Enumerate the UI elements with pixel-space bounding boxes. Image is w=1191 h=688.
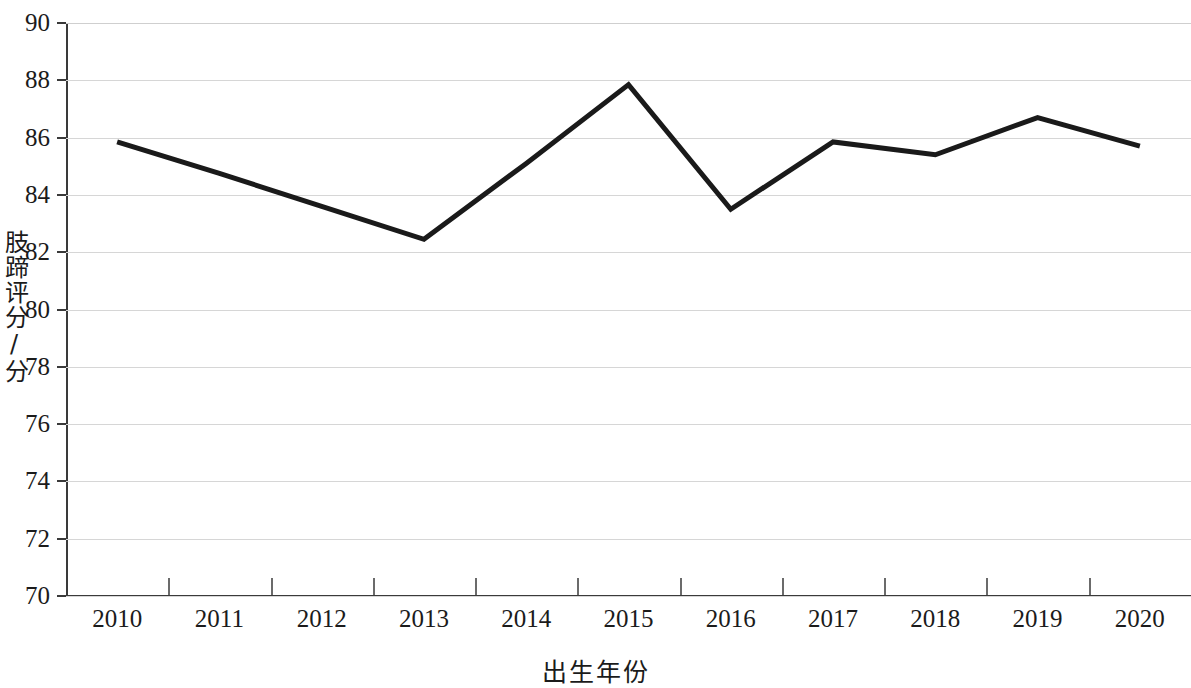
y-tick-mark-80 — [57, 309, 66, 311]
y-tick-label-82: 82 — [0, 239, 50, 264]
x-tick-label-2010: 2010 — [92, 606, 142, 631]
x-tick-label-2014: 2014 — [501, 606, 551, 631]
gridline-84 — [66, 195, 1191, 196]
x-tick-label-2016: 2016 — [706, 606, 756, 631]
plot-area — [66, 23, 1191, 596]
y-tick-label-84: 84 — [0, 182, 50, 207]
x-tick-label-2015: 2015 — [604, 606, 654, 631]
y-tick-label-78: 78 — [0, 354, 50, 379]
y-tick-label-80: 80 — [0, 297, 50, 322]
y-tick-label-88: 88 — [0, 67, 50, 92]
y-tick-mark-84 — [57, 194, 66, 196]
x-tick-label-2019: 2019 — [1013, 606, 1063, 631]
y-tick-label-76: 76 — [0, 411, 50, 436]
y-tick-mark-88 — [57, 79, 66, 81]
gridline-70 — [66, 596, 1191, 597]
x-tick-mark-6 — [680, 578, 682, 595]
gridline-88 — [66, 80, 1191, 81]
x-axis-title: 出生年份 — [0, 652, 1191, 688]
y-tick-label-86: 86 — [0, 125, 50, 150]
x-tick-mark-3 — [373, 578, 375, 595]
x-tick-mark-10 — [1089, 578, 1091, 595]
gridline-78 — [66, 367, 1191, 368]
x-tick-mark-4 — [475, 578, 477, 595]
gridline-80 — [66, 310, 1191, 311]
gridline-90 — [66, 23, 1191, 24]
x-tick-mark-9 — [986, 578, 988, 595]
x-tick-label-2012: 2012 — [297, 606, 347, 631]
gridline-74 — [66, 481, 1191, 482]
x-tick-label-2018: 2018 — [910, 606, 960, 631]
x-tick-label-2011: 2011 — [195, 606, 244, 631]
y-tick-mark-74 — [57, 480, 66, 482]
gridline-86 — [66, 138, 1191, 139]
y-tick-mark-76 — [57, 423, 66, 425]
x-tick-mark-5 — [577, 578, 579, 595]
y-tick-mark-72 — [57, 538, 66, 540]
y-tick-label-74: 74 — [0, 468, 50, 493]
chart-figure: 肢蹄评分/分 9088868482807876747270 2010201120… — [0, 0, 1191, 688]
x-tick-label-2020: 2020 — [1115, 606, 1165, 631]
y-tick-label-70: 70 — [0, 583, 50, 608]
y-tick-label-72: 72 — [0, 526, 50, 551]
gridline-76 — [66, 424, 1191, 425]
y-tick-mark-82 — [57, 251, 66, 253]
x-tick-mark-1 — [168, 578, 170, 595]
gridline-72 — [66, 539, 1191, 540]
y-tick-mark-70 — [57, 595, 66, 597]
x-tick-mark-8 — [884, 578, 886, 595]
x-tick-label-2013: 2013 — [399, 606, 449, 631]
y-tick-label-90: 90 — [0, 10, 50, 35]
y-tick-mark-78 — [57, 366, 66, 368]
x-tick-mark-7 — [782, 578, 784, 595]
x-tick-label-2017: 2017 — [808, 606, 858, 631]
x-tick-mark-2 — [271, 578, 273, 595]
gridline-82 — [66, 252, 1191, 253]
y-tick-mark-86 — [57, 137, 66, 139]
y-tick-mark-90 — [57, 22, 66, 24]
